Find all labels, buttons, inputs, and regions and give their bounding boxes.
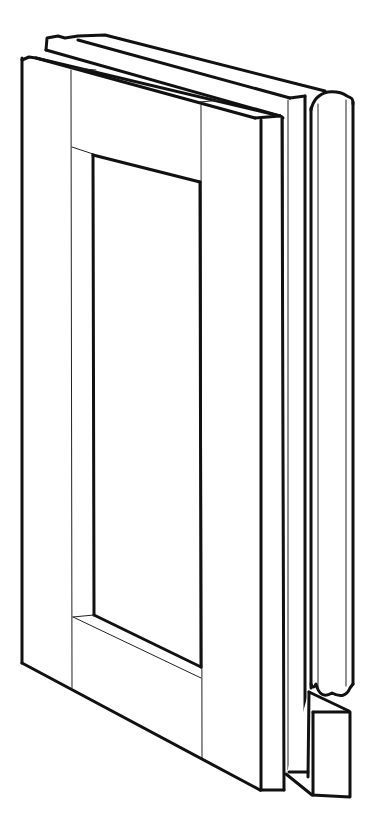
door-frame-drawing: [0, 0, 378, 826]
front-frame: [22, 57, 284, 790]
glazing-bead: [311, 92, 353, 702]
illustration-canvas: [0, 0, 378, 826]
